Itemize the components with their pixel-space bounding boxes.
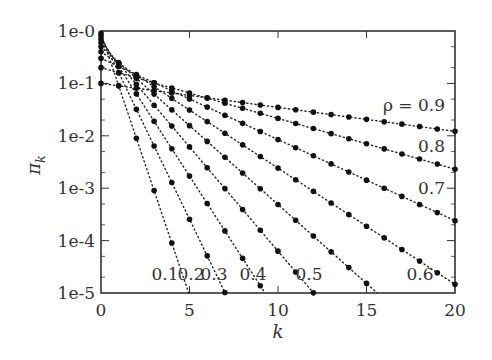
data-point (452, 282, 458, 288)
data-point (435, 270, 441, 276)
data-point (452, 129, 458, 135)
data-point (346, 212, 352, 218)
series-group (98, 31, 458, 296)
data-point (435, 126, 441, 132)
data-point (311, 126, 317, 132)
data-point (275, 202, 281, 208)
data-point (417, 124, 423, 130)
curve-label-0.1: 0.1 (151, 264, 178, 284)
data-point (169, 123, 175, 129)
data-point (399, 194, 405, 200)
data-point (258, 111, 264, 117)
data-point (151, 188, 157, 194)
data-point (399, 247, 405, 253)
data-point (275, 105, 281, 111)
data-point (258, 227, 264, 233)
data-point (293, 121, 299, 127)
data-point (275, 116, 281, 122)
data-point (169, 240, 175, 246)
curve-label-0.3: 0.3 (200, 264, 227, 284)
data-point (381, 119, 387, 125)
data-point (328, 200, 334, 206)
data-point (311, 189, 317, 195)
data-point (151, 143, 157, 149)
data-point (258, 186, 264, 192)
data-point (204, 201, 210, 207)
data-point (240, 207, 246, 213)
data-point (222, 186, 228, 192)
data-point (381, 146, 387, 152)
data-point (328, 249, 334, 255)
data-point (452, 218, 458, 224)
data-point (116, 64, 122, 70)
data-point (169, 96, 175, 102)
data-point (435, 161, 441, 167)
data-point (116, 70, 122, 76)
data-point (222, 290, 228, 296)
curve-label-0.8: 0.8 (418, 136, 445, 156)
data-point (240, 142, 246, 148)
data-point (240, 256, 246, 262)
data-point (187, 216, 193, 222)
data-point (169, 180, 175, 186)
data-point (240, 100, 246, 106)
curve-label-0.4: 0.4 (239, 264, 266, 284)
x-tick-label: 20 (444, 300, 466, 320)
y-tick-label: 1e-5 (58, 283, 95, 303)
data-point (116, 83, 122, 89)
data-point (222, 154, 228, 160)
data-point (364, 281, 370, 287)
curve-label-0.5: 0.5 (295, 264, 322, 284)
data-point (364, 117, 370, 123)
data-point (240, 105, 246, 111)
data-point (452, 166, 458, 172)
data-point (311, 290, 317, 296)
data-point (311, 153, 317, 159)
data-point (399, 151, 405, 157)
series-rho-0.3 (98, 36, 265, 293)
data-point (169, 85, 175, 91)
data-point (187, 173, 193, 179)
data-point (346, 169, 352, 175)
y-tick-label: 1e-0 (58, 21, 95, 41)
data-point (151, 80, 157, 86)
data-point (417, 202, 423, 208)
data-point (187, 107, 193, 113)
data-point (187, 123, 193, 129)
data-point (98, 49, 104, 55)
data-point (222, 112, 228, 118)
data-point (169, 90, 175, 96)
data-point (98, 65, 104, 71)
data-point (364, 177, 370, 183)
data-point (258, 102, 264, 108)
y-tick-label: 1e-4 (58, 231, 95, 251)
data-point (187, 93, 193, 99)
data-point (204, 95, 210, 101)
data-point (258, 129, 264, 135)
data-point (293, 145, 299, 151)
data-point (222, 97, 228, 103)
data-point (328, 161, 334, 167)
curve-label-0.6: 0.6 (406, 264, 433, 284)
x-tick-label: 15 (356, 300, 378, 320)
data-point (222, 130, 228, 136)
data-point (151, 119, 157, 125)
data-point (169, 146, 175, 152)
curve-label-0.7: 0.7 (418, 178, 445, 198)
data-point (417, 156, 423, 162)
series-rho-0.7 (98, 56, 458, 224)
x-tick-label: 0 (96, 300, 107, 320)
data-point (346, 265, 352, 271)
data-point (328, 131, 334, 137)
y-axis-title-sub: k (33, 155, 48, 163)
data-point (275, 165, 281, 171)
data-point (275, 137, 281, 143)
data-point (98, 56, 104, 62)
data-point (134, 85, 140, 91)
y-tick-label: 1e-3 (58, 178, 95, 198)
data-point (364, 141, 370, 147)
data-point (364, 223, 370, 229)
data-point (204, 139, 210, 145)
data-point (240, 121, 246, 127)
data-point (204, 104, 210, 110)
